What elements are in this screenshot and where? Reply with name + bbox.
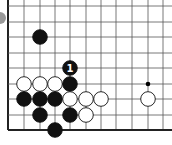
black-stone <box>63 77 78 92</box>
move-number-label: 1 <box>67 63 74 74</box>
star-points <box>146 82 151 87</box>
go-board: 1 <box>0 0 172 145</box>
black-stone <box>33 108 48 123</box>
black-stone <box>33 30 48 45</box>
white-stone <box>79 108 94 123</box>
black-stone <box>63 108 78 123</box>
white-stone <box>141 92 156 107</box>
star-point-icon <box>146 82 151 87</box>
white-stone <box>48 77 63 92</box>
black-stone <box>33 92 48 107</box>
white-stone <box>63 92 78 107</box>
black-stone: 1 <box>63 61 78 76</box>
black-stone <box>48 123 63 138</box>
white-stone <box>94 92 109 107</box>
white-stone <box>17 77 32 92</box>
white-stone <box>33 77 48 92</box>
black-stone <box>48 92 63 107</box>
partial-marker-icon <box>0 12 6 24</box>
black-stone <box>17 92 32 107</box>
white-stone <box>79 92 94 107</box>
